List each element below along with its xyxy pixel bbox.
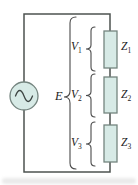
label-v1-base: V xyxy=(71,40,78,52)
label-z1: Z1 xyxy=(121,40,131,55)
impedance-box-z1 xyxy=(104,31,117,68)
label-v3: V3 xyxy=(71,136,82,151)
page-scan-shadow xyxy=(2,178,136,184)
label-v3-base: V xyxy=(71,136,78,148)
impedance-box-z2 xyxy=(104,77,117,113)
circuit-svg xyxy=(0,0,138,185)
label-e-base: E xyxy=(55,89,63,103)
label-z1-sub: 1 xyxy=(127,46,131,55)
label-z3-sub: 3 xyxy=(127,142,131,151)
brace-v1 xyxy=(86,27,95,71)
label-e: E xyxy=(55,89,63,105)
label-v1-sub: 1 xyxy=(78,46,82,55)
label-v2-sub: 2 xyxy=(78,94,82,103)
impedance-box-z3 xyxy=(104,125,117,162)
circuit-diagram: E V1 V2 V3 Z1 Z2 Z3 xyxy=(0,0,138,185)
label-v2: V2 xyxy=(71,88,82,103)
label-v3-sub: 3 xyxy=(78,142,82,151)
brace-v3 xyxy=(86,122,95,166)
label-z3: Z3 xyxy=(121,136,131,151)
label-v1: V1 xyxy=(71,40,82,55)
label-v2-base: V xyxy=(71,88,78,100)
label-z2-sub: 2 xyxy=(127,94,131,103)
label-z2: Z2 xyxy=(121,88,131,103)
brace-v2 xyxy=(86,74,95,117)
